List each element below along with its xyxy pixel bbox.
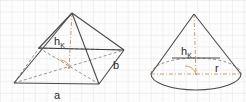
geometry-figure-canvas: hK a b xyxy=(0,0,246,102)
cone-figure: hK r xyxy=(151,14,241,90)
cone-base-center-dot xyxy=(195,73,197,75)
pyramid-height-axis xyxy=(69,13,72,68)
cone-right-angle-icon xyxy=(185,66,196,74)
solids-illustration: hK a b xyxy=(0,0,246,102)
pyramid-base-center-dot xyxy=(68,67,70,69)
cone-height-axis xyxy=(194,14,196,75)
pyramid-height-label: hK xyxy=(54,35,65,49)
cone-base-visible-arc xyxy=(151,74,241,90)
cone-radius-label: r xyxy=(215,62,219,74)
cone-height-label: hK xyxy=(181,45,192,59)
pyramid-figure: hK a b xyxy=(14,13,124,101)
pyramid-base-side-label: b xyxy=(113,59,119,71)
pyramid-base-front-label: a xyxy=(54,89,61,101)
pyramid-height-reference-line xyxy=(38,48,124,50)
